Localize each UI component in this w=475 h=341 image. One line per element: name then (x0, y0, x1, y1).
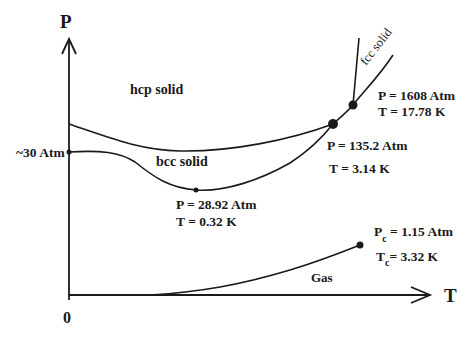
gas-label: Gas (311, 270, 333, 285)
triple-point-fcc (349, 101, 358, 110)
critical-point (357, 242, 364, 249)
triple-point-bcc (328, 119, 338, 129)
bcc-minimum-pressure: P = 28.92 Atm (176, 197, 257, 212)
temperature-axis-label: T (444, 285, 457, 306)
hcp-solid-label: hcp solid (130, 82, 184, 97)
triple-point-fcc-temperature: T = 17.78 K (378, 104, 446, 119)
hcp-bcc-boundary (69, 124, 333, 151)
bcc-solid-label: bcc solid (156, 154, 208, 169)
origin-label: 0 (63, 309, 71, 326)
critical-temperature: Tc= 3.32 K (376, 249, 439, 268)
triple-point-fcc-pressure: P = 1608 Atm (378, 88, 456, 103)
triple-point-bcc-pressure: P = 135.2 Atm (327, 138, 408, 153)
pressure-axis-label: P (60, 11, 72, 32)
phase-diagram: P T 0 ~30 Atm hcp solid bcc solid fcc so… (0, 0, 475, 341)
bcc-minimum-point (194, 188, 199, 193)
hcp-fcc-boundary (353, 38, 359, 105)
bcc-minimum-temperature: T = 0.32 K (176, 214, 237, 229)
pressure-30atm-label: ~30 Atm (16, 145, 65, 160)
critical-pressure: Pc = 1.15 Atm (374, 224, 454, 244)
triple-point-bcc-temperature: T = 3.14 K (329, 161, 390, 176)
bcc-intercept-point (67, 150, 72, 155)
